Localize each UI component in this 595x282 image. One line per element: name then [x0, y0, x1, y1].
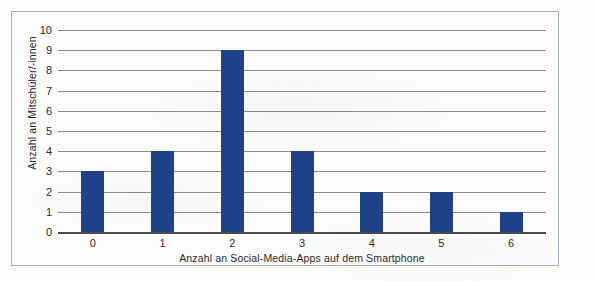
gridline-6 [58, 111, 546, 112]
bar [500, 212, 523, 232]
y-tick-label: 1 [30, 206, 52, 217]
bar [430, 192, 453, 232]
x-tick-label: 4 [352, 236, 392, 250]
x-tick-label: 5 [421, 236, 461, 250]
gridline-5 [58, 131, 546, 132]
gridline-8 [58, 70, 546, 71]
bar [360, 192, 383, 232]
x-tick-label: 0 [73, 236, 113, 250]
x-tick-label: 2 [212, 236, 252, 250]
bar [81, 171, 104, 232]
bar [291, 151, 314, 232]
plot-area [58, 30, 546, 232]
y-axis-title: Anzahl an Mitschüler/-innen [26, 8, 38, 198]
x-axis-tick-labels: 0123456 [58, 236, 546, 252]
gridline-10 [58, 30, 546, 31]
bar [151, 151, 174, 232]
bar [221, 50, 244, 232]
bar-chart-figure: 012345678910 0123456 Anzahl an Social-Me… [0, 0, 595, 282]
gridline-7 [58, 91, 546, 92]
x-axis-title: Anzahl an Social-Media-Apps auf dem Smar… [58, 252, 546, 264]
gridline-9 [58, 50, 546, 51]
x-axis-line [58, 232, 546, 234]
y-tick-label: 0 [30, 227, 52, 238]
x-tick-label: 1 [143, 236, 183, 250]
x-tick-label: 6 [491, 236, 531, 250]
x-tick-label: 3 [282, 236, 322, 250]
